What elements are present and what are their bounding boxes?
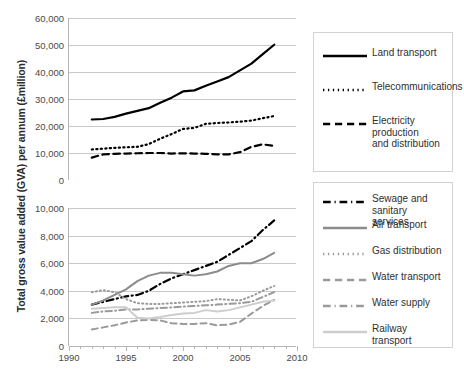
y-axis-title: Total gross value added (GVA) per annum …	[15, 16, 27, 356]
legend-item[interactable]: Water supply	[322, 297, 448, 310]
legend-item[interactable]: Gas distribution	[322, 245, 448, 258]
legend-line-swatch	[322, 300, 368, 312]
legend-line-swatch	[322, 222, 368, 234]
y-tick-label: 60,000	[35, 13, 64, 24]
x-tick	[297, 346, 298, 351]
x-tick	[251, 346, 252, 349]
x-tick	[240, 346, 241, 351]
legend-swatch	[322, 220, 368, 232]
x-tick	[92, 346, 93, 349]
lower-chart-panel: 02,0004,0006,0008,00010,0001990199520002…	[68, 208, 296, 346]
x-tick	[286, 346, 287, 349]
legend-item[interactable]: Electricity production and distribution	[322, 115, 448, 150]
legend-item[interactable]: Water transport	[322, 271, 448, 284]
legend-line-swatch	[322, 326, 368, 338]
y-tick-label: 30,000	[35, 94, 64, 105]
legend-line-swatch	[322, 84, 368, 96]
legend-line-swatch	[322, 196, 368, 208]
legend-line-swatch	[322, 274, 368, 286]
legend-label: Land transport	[372, 47, 437, 59]
x-tick	[137, 346, 138, 349]
lower-plot-area: 02,0004,0006,0008,00010,0001990199520002…	[68, 208, 296, 346]
legend-label: Railway transport	[372, 323, 448, 346]
legend-swatch	[322, 246, 368, 258]
x-tick	[115, 346, 116, 349]
legend-swatch	[322, 272, 368, 284]
series-layer	[69, 208, 297, 346]
y-tick-label: 10,000	[35, 148, 64, 159]
legend-swatch	[322, 194, 368, 206]
y-tick-label: 6,000	[40, 258, 64, 269]
y-tick-label: 8,000	[40, 230, 64, 241]
legend-label: Electricity production and distribution	[372, 115, 448, 150]
legend-swatch	[322, 48, 368, 60]
legend-label: Water transport	[372, 271, 441, 283]
chart-figure: Total gross value added (GVA) per annum …	[0, 0, 464, 388]
legend-label: Air transport	[372, 219, 426, 231]
lower-legend-box: Sewage and sanitary servicesAir transpor…	[313, 182, 453, 348]
x-tick	[263, 346, 264, 349]
series-line	[92, 144, 274, 157]
legend-swatch	[322, 116, 368, 128]
legend-label: Gas distribution	[372, 245, 441, 257]
x-tick	[183, 346, 184, 351]
upper-chart-panel: 010,00020,00030,00040,00050,00060,000	[68, 18, 296, 180]
x-tick-label: 2010	[286, 352, 307, 363]
y-tick-label: 20,000	[35, 121, 64, 132]
series-line	[92, 286, 274, 304]
legend-swatch	[322, 298, 368, 310]
x-tick	[217, 346, 218, 349]
x-tick	[160, 346, 161, 349]
x-tick	[206, 346, 207, 349]
legend-item[interactable]: Railway transport	[322, 323, 448, 346]
legend-line-swatch	[322, 118, 368, 130]
series-line	[92, 116, 274, 149]
upper-plot-area: 010,00020,00030,00040,00050,00060,000	[68, 18, 296, 180]
series-line	[92, 45, 274, 120]
x-tick	[126, 346, 127, 351]
series-line	[92, 253, 274, 305]
x-tick	[172, 346, 173, 349]
legend-line-swatch	[322, 248, 368, 260]
x-tick	[149, 346, 150, 349]
y-tick-label: 10,000	[35, 203, 64, 214]
x-tick	[229, 346, 230, 349]
y-tick-label: 0	[59, 341, 64, 352]
y-tick-label: 50,000	[35, 40, 64, 51]
legend-item[interactable]: Air transport	[322, 219, 448, 232]
x-tick	[69, 346, 70, 351]
x-tick	[103, 346, 104, 349]
y-tick-label: 40,000	[35, 67, 64, 78]
x-tick	[274, 346, 275, 349]
series-layer	[69, 18, 297, 180]
legend-line-swatch	[322, 50, 368, 62]
series-line	[92, 300, 274, 330]
x-tick-label: 2000	[172, 352, 193, 363]
y-tick-label: 0	[59, 175, 64, 186]
y-tick-label: 4,000	[40, 285, 64, 296]
x-tick-label: 1995	[115, 352, 136, 363]
legend-item[interactable]: Telecommunications	[322, 81, 448, 94]
legend-item[interactable]: Land transport	[322, 47, 448, 60]
legend-swatch	[322, 324, 368, 336]
y-tick-label: 2,000	[40, 313, 64, 324]
x-tick-label: 1990	[58, 352, 79, 363]
legend-label: Water supply	[372, 297, 430, 309]
legend-swatch	[322, 82, 368, 94]
x-tick-label: 2005	[229, 352, 250, 363]
upper-legend-box: Land transportTelecommunicationsElectric…	[313, 32, 453, 172]
x-tick	[194, 346, 195, 349]
x-tick	[80, 346, 81, 349]
legend-label: Telecommunications	[372, 81, 463, 93]
